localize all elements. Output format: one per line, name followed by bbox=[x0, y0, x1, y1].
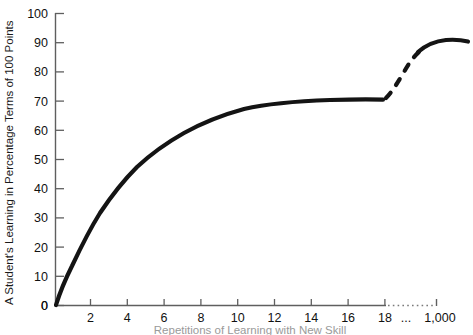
y-tick-label: 60 bbox=[34, 124, 48, 138]
y-tick-90: 90 bbox=[34, 36, 64, 50]
y-tick-80: 80 bbox=[34, 65, 64, 79]
y-tick-label: 70 bbox=[34, 95, 48, 109]
x-tick-label: 18 bbox=[378, 311, 392, 325]
x-tick-6: 6 bbox=[161, 299, 168, 325]
x-tick-label: 12 bbox=[268, 311, 282, 325]
x-tick-12: 12 bbox=[268, 299, 282, 325]
x-tick-14: 14 bbox=[304, 299, 318, 325]
y-tick-30: 30 bbox=[34, 211, 64, 225]
x-tick-label: 2 bbox=[87, 311, 94, 325]
y-tick-40: 40 bbox=[34, 182, 64, 196]
x-tick-16: 16 bbox=[341, 299, 355, 325]
x-tick-18: 18 bbox=[378, 299, 392, 325]
x-tick-label: 8 bbox=[197, 311, 204, 325]
y-tick-label: 40 bbox=[34, 182, 48, 196]
y-tick-label: 20 bbox=[34, 241, 48, 255]
x-tick-label: 16 bbox=[341, 311, 355, 325]
y-tick-label: 90 bbox=[34, 36, 48, 50]
y-tick-label: 80 bbox=[34, 65, 48, 79]
x-tick-group: 2 4 6 8 10 12 bbox=[87, 299, 392, 325]
x-tick-label: 10 bbox=[231, 311, 245, 325]
y-tick-label: 10 bbox=[34, 270, 48, 284]
y-tick-label: 100 bbox=[27, 7, 48, 21]
x-axis-far-label: 1,000 bbox=[424, 311, 455, 325]
y-tick-10: 10 bbox=[34, 270, 64, 284]
x-tick-2: 2 bbox=[87, 299, 94, 325]
y-tick-label: 50 bbox=[34, 153, 48, 167]
chart-canvas: A Student's Learning in Percentage Terms… bbox=[0, 0, 473, 335]
learning-curve-chart: A Student's Learning in Percentage Terms… bbox=[0, 0, 473, 335]
x-tick-4: 4 bbox=[124, 299, 131, 325]
x-axis-break-ellipsis: ... bbox=[401, 311, 411, 325]
x-tick-label: 6 bbox=[161, 311, 168, 325]
origin-zero-label: 0 bbox=[41, 299, 48, 313]
learning-curve-final-plateau bbox=[418, 40, 468, 52]
y-tick-group: 0 10 20 30 40 50 bbox=[27, 7, 64, 313]
y-tick-20: 20 bbox=[34, 241, 64, 255]
x-tick-label: 4 bbox=[124, 311, 131, 325]
y-axis-title: A Student's Learning in Percentage Terms… bbox=[3, 20, 15, 305]
y-tick-50: 50 bbox=[34, 153, 64, 167]
learning-curve-solid bbox=[56, 99, 383, 305]
x-axis-title: Repetitions of Learning with New Skill bbox=[154, 324, 346, 335]
y-tick-70: 70 bbox=[34, 95, 64, 109]
x-tick-label: 14 bbox=[304, 311, 318, 325]
y-tick-label: 30 bbox=[34, 211, 48, 225]
x-tick-10: 10 bbox=[231, 299, 245, 325]
learning-curve-projected bbox=[386, 51, 420, 98]
y-tick-60: 60 bbox=[34, 124, 64, 138]
x-tick-8: 8 bbox=[197, 299, 204, 325]
y-tick-100: 100 bbox=[27, 7, 64, 21]
